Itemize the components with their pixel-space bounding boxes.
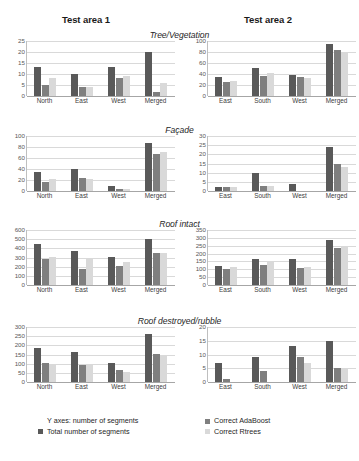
x-axis-tick-label: East — [207, 97, 244, 105]
y-axis-tick-label: 40 — [18, 166, 25, 172]
x-axis-labels: NorthEastWestMerged — [26, 383, 174, 393]
y-axis-tick-label: 5 — [22, 82, 25, 88]
bar — [341, 167, 348, 191]
y-axis-tick-label: 0 — [22, 282, 25, 288]
plot-grid — [26, 230, 175, 285]
x-axis-tick-label: Merged — [318, 97, 355, 105]
x-axis-tick-label: West — [281, 192, 318, 200]
bar — [34, 348, 41, 382]
x-axis-tick-label: East — [207, 383, 244, 391]
bar-series-container — [27, 136, 175, 191]
x-axis-tick-label: Merged — [137, 192, 174, 200]
bar — [160, 355, 167, 383]
x-axis-labels: EastSouthWestMerged — [207, 383, 355, 393]
y-axis-tick-label: 20 — [18, 177, 25, 183]
legend-label-adaboost: Correct AdaBoost — [214, 416, 270, 427]
bar — [116, 266, 123, 285]
bar — [326, 240, 333, 285]
legend-label-rtrees: Correct Rtrees — [214, 427, 261, 438]
y-axis-tick-label: 80 — [199, 49, 206, 55]
x-axis-tick-label: Merged — [137, 383, 174, 391]
y-axis-tick-label: 0 — [203, 188, 206, 194]
x-axis-tick-label: North — [26, 192, 63, 200]
plot-area: 0510152025NorthEastWestMerged — [4, 41, 174, 106]
y-axis-tick-label: 15 — [199, 338, 206, 344]
x-axis-labels: NorthEastWestMerged — [26, 286, 174, 296]
x-axis-tick-label: East — [63, 192, 100, 200]
bar — [108, 257, 115, 285]
bar — [223, 269, 230, 286]
legend-swatch-total — [38, 429, 43, 434]
bar — [304, 267, 311, 285]
bar — [252, 173, 259, 191]
y-axis-labels: 050100150200250300350 — [185, 230, 207, 285]
y-axis-tick-label: 20 — [199, 151, 206, 157]
bar — [341, 53, 348, 96]
y-axis-labels: 0100200300400500600 — [4, 230, 26, 285]
plot-grid — [26, 327, 175, 382]
y-axis-tick-label: 100 — [15, 361, 25, 367]
x-axis-tick-label: North — [26, 97, 63, 105]
bar — [145, 52, 152, 96]
chart-panel: 0100200300400500600NorthEastWestMerged — [4, 230, 174, 295]
bar — [267, 262, 274, 285]
bar-series-container — [208, 327, 356, 382]
y-axis-tick-label: 25 — [18, 38, 25, 44]
bar — [153, 154, 160, 191]
bar — [49, 365, 56, 382]
x-axis-tick-label: South — [244, 97, 281, 105]
y-axis-tick-label: 0 — [203, 282, 206, 288]
chart-row-title: Roof intact — [0, 219, 359, 229]
y-axis-tick-label: 0 — [22, 188, 25, 194]
panel-header-area1: Test area 1 — [62, 14, 110, 25]
x-axis-tick-label: Merged — [318, 192, 355, 200]
x-axis-tick-label: West — [281, 383, 318, 391]
y-axis-labels: 05101520 — [185, 327, 207, 382]
bar — [42, 363, 49, 382]
x-axis-tick-label: West — [100, 286, 137, 294]
bar — [289, 346, 296, 382]
bar — [215, 266, 222, 285]
legend-column-left: Y axes: number of segments Total number … — [38, 416, 138, 437]
bar — [334, 368, 341, 382]
x-axis-tick-label: East — [207, 192, 244, 200]
bar — [42, 259, 49, 285]
bar — [42, 85, 49, 96]
y-axis-tick-label: 150 — [196, 258, 206, 264]
legend-item-rtrees: Correct Rtrees — [205, 427, 270, 438]
bar — [71, 74, 78, 96]
bar — [223, 82, 230, 96]
x-axis-tick-label: Merged — [137, 97, 174, 105]
y-axis-tick-label: 20 — [199, 82, 206, 88]
chart-panel: 050100150200250300350EastSouthWestMerged — [185, 230, 355, 295]
bar — [153, 354, 160, 382]
panel-header-area2: Test area 2 — [244, 14, 292, 25]
bar — [230, 187, 237, 191]
bar — [116, 78, 123, 96]
chart-panel: 0510152025NorthEastWestMerged — [4, 41, 174, 106]
bar — [123, 372, 130, 382]
x-axis-tick-label: West — [281, 97, 318, 105]
bar — [267, 186, 274, 192]
bar — [230, 81, 237, 96]
bar-series-container — [208, 41, 356, 96]
x-axis-tick-label: West — [100, 97, 137, 105]
bar — [334, 248, 341, 285]
legend-item-adaboost: Correct AdaBoost — [205, 416, 270, 427]
x-axis-tick-label: Merged — [318, 286, 355, 294]
y-axis-tick-label: 80 — [18, 144, 25, 150]
bar — [116, 370, 123, 382]
x-axis-tick-label: Merged — [137, 286, 174, 294]
bar — [341, 368, 348, 382]
bar — [297, 357, 304, 382]
legend-yaxis-note: Y axes: number of segments — [38, 416, 138, 427]
y-axis-tick-label: 5 — [203, 179, 206, 185]
y-axis-tick-label: 20 — [199, 324, 206, 330]
y-axis-tick-label: 200 — [15, 342, 25, 348]
bar — [297, 77, 304, 96]
x-axis-tick-label: East — [207, 286, 244, 294]
bar — [289, 75, 296, 96]
y-axis-tick-label: 150 — [15, 352, 25, 358]
y-axis-tick-label: 40 — [199, 71, 206, 77]
y-axis-tick-label: 200 — [15, 264, 25, 270]
